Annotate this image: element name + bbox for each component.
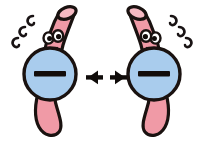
right-pupil-inner [143, 34, 148, 39]
illustration-canvas: Two negatively charged particles repelli… [0, 0, 204, 148]
right-eyes [141, 30, 161, 43]
left-eyes [44, 30, 64, 43]
left-minus-sign-icon [34, 71, 66, 76]
repelling-charges-illustration [0, 0, 204, 148]
right-minus-sign-icon [138, 71, 170, 76]
left-pupil-inner [56, 34, 61, 39]
left-pupil-outer [47, 36, 52, 41]
right-pupil-outer [152, 36, 157, 41]
